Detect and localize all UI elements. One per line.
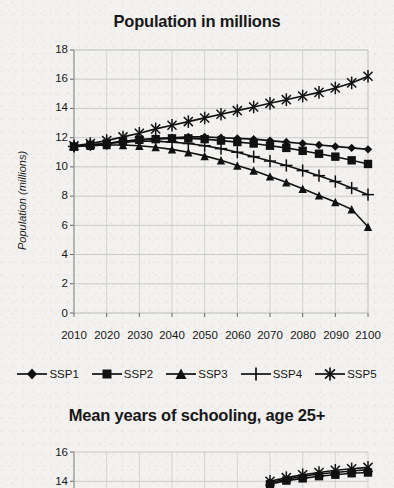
legend-label-ssp4: SSP4: [273, 368, 302, 380]
schooling-chart-figure: Mean years of schooling, age 25+ 16 14: [0, 400, 394, 488]
legend-label-ssp1: SSP1: [49, 368, 78, 380]
legend-item-ssp3[interactable]: SSP3: [166, 367, 227, 381]
legend-item-ssp5[interactable]: SSP5: [315, 367, 376, 381]
chart-legend: SSP1 SSP2 SSP3 SSP4 SSP5: [0, 362, 394, 386]
legend-label-ssp2: SSP2: [124, 368, 153, 380]
legend-item-ssp4[interactable]: SSP4: [241, 367, 302, 381]
population-plot-area: [0, 0, 394, 400]
schooling-plot-area: [0, 400, 394, 488]
legend-label-ssp5: SSP5: [347, 368, 376, 380]
legend-item-ssp1[interactable]: SSP1: [17, 367, 78, 381]
diamond-marker-icon: [17, 367, 47, 381]
legend-item-ssp2[interactable]: SSP2: [92, 367, 153, 381]
plus-marker-icon: [241, 367, 271, 381]
triangle-marker-icon: [166, 367, 196, 381]
legend-label-ssp3: SSP3: [198, 368, 227, 380]
square-marker-icon: [92, 367, 122, 381]
population-chart-figure: Population in millions Population (milli…: [0, 0, 394, 400]
asterisk-marker-icon: [315, 367, 345, 381]
